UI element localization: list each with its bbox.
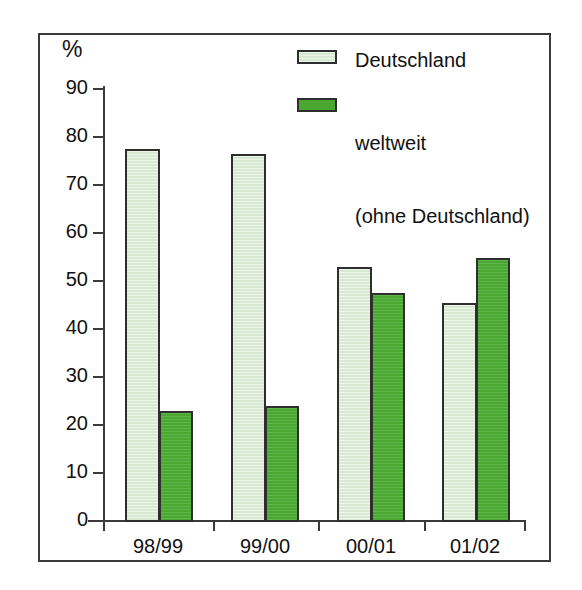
bar-deutschland-99-00 bbox=[231, 154, 266, 522]
y-axis-unit-label: % bbox=[62, 38, 82, 61]
y-tick-0 bbox=[88, 520, 103, 522]
dark-green-swatch-icon bbox=[297, 98, 337, 112]
y-tick-label-40: 40 bbox=[44, 317, 88, 337]
legend-label-weltweit-sub: (ohne Deutschland) bbox=[355, 204, 530, 228]
y-tick-label-80: 80 bbox=[44, 125, 88, 145]
x-tick-1 bbox=[213, 520, 215, 531]
y-tick-label-20: 20 bbox=[44, 413, 88, 433]
bar-deutschland-98-99 bbox=[125, 149, 160, 522]
y-tick-label-30: 30 bbox=[44, 365, 88, 385]
legend-item-deutschland: Deutschland bbox=[297, 48, 466, 72]
x-tick-label-99-00: 99/00 bbox=[210, 535, 320, 557]
bar-weltweit-01-02 bbox=[476, 258, 510, 522]
y-tick-label-50: 50 bbox=[44, 269, 88, 289]
x-tick-label-98-99: 98/99 bbox=[103, 535, 213, 557]
y-tick-label-60: 60 bbox=[44, 221, 88, 241]
bar-chart: % 90 80 70 60 50 40 30 20 10 0 98/99 bbox=[0, 0, 582, 590]
y-tick-label-10: 10 bbox=[44, 461, 88, 481]
y-tick-90 bbox=[93, 88, 103, 90]
x-tick-label-00-01: 00/01 bbox=[316, 535, 426, 557]
y-tick-70 bbox=[93, 184, 103, 186]
y-tick-40 bbox=[93, 328, 103, 330]
legend-item-weltweit: weltweit (ohne Deutschland) bbox=[297, 84, 530, 277]
y-tick-20 bbox=[93, 424, 103, 426]
y-tick-10 bbox=[93, 472, 103, 474]
legend-label-deutschland: Deutschland bbox=[355, 48, 466, 72]
bar-deutschland-00-01 bbox=[337, 267, 372, 522]
y-tick-80 bbox=[93, 136, 103, 138]
y-axis-line bbox=[103, 86, 105, 522]
light-green-swatch-icon bbox=[297, 50, 337, 64]
x-tick-2 bbox=[318, 520, 320, 531]
bar-weltweit-99-00 bbox=[265, 406, 299, 522]
y-tick-50 bbox=[93, 280, 103, 282]
legend-label-weltweit: weltweit bbox=[355, 131, 530, 155]
y-tick-label-90: 90 bbox=[44, 77, 88, 97]
x-tick-label-01-02: 01/02 bbox=[420, 535, 530, 557]
y-tick-label-70: 70 bbox=[44, 173, 88, 193]
bar-weltweit-00-01 bbox=[371, 293, 405, 522]
x-tick-3 bbox=[424, 520, 426, 531]
y-tick-60 bbox=[93, 232, 103, 234]
x-tick-0 bbox=[103, 520, 105, 531]
y-tick-30 bbox=[93, 376, 103, 378]
legend-label-weltweit-block: weltweit (ohne Deutschland) bbox=[355, 82, 530, 277]
bar-weltweit-98-99 bbox=[159, 411, 193, 522]
y-tick-label-0: 0 bbox=[44, 509, 88, 529]
bar-deutschland-01-02 bbox=[442, 303, 477, 522]
x-tick-4 bbox=[524, 520, 526, 531]
